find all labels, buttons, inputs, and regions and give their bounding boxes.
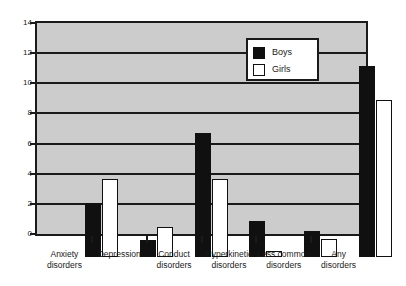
legend-label: Girls xyxy=(272,65,291,74)
bar-girls-0 xyxy=(102,179,118,257)
y-axis-tick-label: 4 xyxy=(8,170,32,178)
chart-legend: BoysGirls xyxy=(246,38,319,81)
x-axis-category-label: Depression xyxy=(92,249,147,260)
bar-chart: 02468101214 Anxiety disordersDepressionC… xyxy=(0,0,406,286)
x-axis-tick-mark xyxy=(255,236,257,243)
y-axis-tick-label: 14 xyxy=(8,19,32,27)
bar-girls-2 xyxy=(212,179,228,257)
x-axis-tick-mark xyxy=(146,236,148,243)
y-axis-tick-label: 8 xyxy=(8,109,32,117)
x-axis-category-label: Conduct disorders xyxy=(147,249,202,271)
legend-item-girls: Girls xyxy=(253,61,317,78)
y-axis-tick-label: 2 xyxy=(8,200,32,208)
y-axis-tick-label: 6 xyxy=(8,140,32,148)
legend-label: Boys xyxy=(272,48,292,57)
bar-boys-2 xyxy=(195,133,211,257)
bar-girls-5 xyxy=(376,100,392,257)
y-axis-tick-label: 0 xyxy=(8,230,32,238)
x-axis-tick-mark xyxy=(91,236,93,243)
x-axis-category-label: Hyperkinetic disorders xyxy=(202,249,257,271)
legend-swatch-girls xyxy=(253,64,265,76)
x-axis-category-label: Anxiety disorders xyxy=(37,249,92,271)
x-axis-category-label: Less common disorders xyxy=(256,249,311,271)
bars-layer xyxy=(74,46,403,257)
legend-item-boys: Boys xyxy=(253,44,317,61)
x-axis-category-label: Any disorders xyxy=(311,249,366,271)
y-axis-tick-label: 10 xyxy=(8,79,32,87)
y-axis-tick-label: 12 xyxy=(8,49,32,57)
x-axis-tick-mark xyxy=(310,236,312,243)
bar-boys-5 xyxy=(359,66,375,257)
x-axis-tick-mark xyxy=(201,236,203,243)
legend-swatch-boys xyxy=(253,47,265,59)
